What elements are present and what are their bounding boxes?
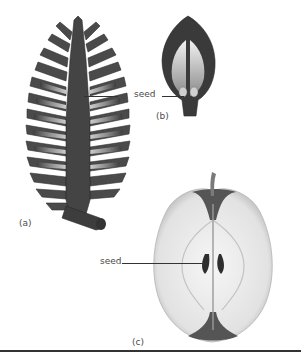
seed-label-ab: seed	[134, 89, 155, 99]
panel-label-b: (b)	[156, 111, 169, 121]
seed-label-c: seed	[100, 256, 121, 266]
panel-label-c: (c)	[132, 337, 144, 347]
seed-leader-line-a	[84, 96, 118, 97]
pine-cone-illustration	[26, 16, 130, 230]
bottom-rule-divider	[0, 350, 301, 352]
figure-illustration	[0, 0, 301, 359]
panel-label-a: (a)	[19, 218, 32, 228]
seed-leader-line-c	[122, 263, 206, 264]
apple-section-illustration	[154, 172, 273, 342]
flower-section-illustration	[162, 16, 215, 116]
seed-leader-line-b	[162, 96, 184, 97]
